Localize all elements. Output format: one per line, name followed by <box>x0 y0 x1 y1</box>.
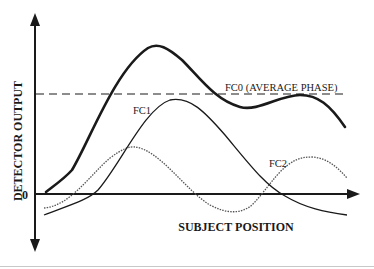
bottom-divider <box>0 266 374 267</box>
fc1-label: FC1 <box>133 105 151 116</box>
detector-output-diagram: 0 DETECTOR OUTPUT SUBJECT POSITION FC0 (… <box>0 0 374 269</box>
y-axis <box>30 13 40 252</box>
y-axis-down-arrow-icon <box>30 239 40 252</box>
fc2-curve <box>44 147 347 212</box>
fc2-label: FC2 <box>269 158 287 169</box>
x-axis-right-arrow-icon <box>347 189 360 199</box>
x-axis-label: SUBJECT POSITION <box>178 220 294 234</box>
y-axis-label: DETECTOR OUTPUT <box>11 81 25 201</box>
fc1-curve <box>44 99 347 215</box>
y-axis-up-arrow-icon <box>30 13 40 26</box>
combined-output-curve <box>46 46 345 192</box>
x-axis <box>35 189 360 199</box>
fc0-label: FC0 (AVERAGE PHASE) <box>225 82 338 94</box>
